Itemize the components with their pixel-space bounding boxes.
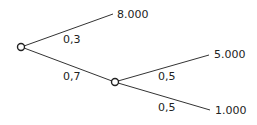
outcome-label: 1.000 <box>215 105 247 117</box>
outcome-label: 8.000 <box>117 9 149 21</box>
probability-label: 0,5 <box>158 102 176 114</box>
outcome-label: 5.000 <box>214 49 246 61</box>
root-node <box>18 44 25 51</box>
chance-node <box>112 79 119 86</box>
probability-label: 0,7 <box>63 71 81 83</box>
probability-tree-diagram: 8.000 0,3 0,7 0,5 5.000 0,5 1.000 <box>0 0 257 125</box>
probability-label: 0,3 <box>63 34 81 46</box>
probability-label: 0,5 <box>158 71 176 83</box>
